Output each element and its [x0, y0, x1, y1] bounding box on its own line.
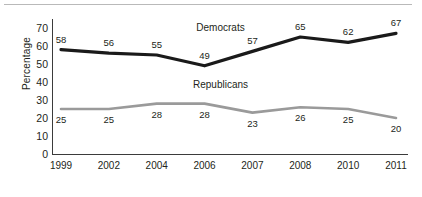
y-axis-tick-label: 50	[36, 59, 48, 69]
x-axis-tick-label: 2007	[241, 160, 263, 171]
x-axis-tick-label: 2011	[385, 160, 407, 171]
data-point-label: 55	[151, 40, 162, 50]
data-point-label: 62	[343, 27, 354, 37]
data-point-label: 58	[56, 35, 67, 45]
x-axis-line	[52, 154, 408, 155]
data-point-label: 26	[295, 113, 306, 123]
x-axis-tick-label: 2006	[193, 160, 215, 171]
data-point-label: 65	[295, 22, 306, 32]
x-axis-tick-label: 2010	[337, 160, 359, 171]
x-axis-tick-label: 2008	[289, 160, 311, 171]
series-label-democrats: Democrats	[196, 23, 244, 33]
data-point-label: 25	[56, 115, 67, 125]
y-axis-tick-label: 0	[42, 149, 48, 159]
x-axis-tick-label: 2002	[98, 160, 120, 171]
y-axis-tick-label: 40	[36, 77, 48, 87]
data-point-label: 56	[104, 38, 115, 48]
x-axis-tick-label: 2004	[146, 160, 168, 171]
data-point-label: 28	[199, 110, 210, 120]
y-axis-tick-label: 60	[36, 41, 48, 51]
data-point-label: 20	[391, 124, 402, 134]
x-axis-tick-labels: 19992002200420062007200820102011	[53, 160, 408, 176]
y-axis-tick-labels: 010203040506070	[22, 19, 48, 154]
y-axis-tick-label: 20	[36, 113, 48, 123]
y-axis-tick-label: 30	[36, 95, 48, 105]
data-point-label: 49	[199, 51, 210, 61]
data-point-label: 23	[247, 119, 258, 129]
data-point-label: 67	[391, 18, 402, 28]
data-point-label: 28	[151, 110, 162, 120]
series-label-republicans: Republicans	[193, 80, 248, 90]
top-divider-rule	[4, 4, 412, 5]
data-point-label: 25	[343, 115, 354, 125]
y-axis-tick-label: 10	[36, 131, 48, 141]
data-point-label: 57	[247, 36, 258, 46]
plot-area: 5856554957656267Democrats252528282326252…	[53, 19, 408, 154]
y-axis-tick-label: 70	[36, 23, 48, 33]
x-axis-tick-label: 1999	[50, 160, 72, 171]
data-point-label: 25	[104, 115, 115, 125]
line-chart-figure: Percentage 010203040506070 5856554957656…	[0, 0, 422, 197]
